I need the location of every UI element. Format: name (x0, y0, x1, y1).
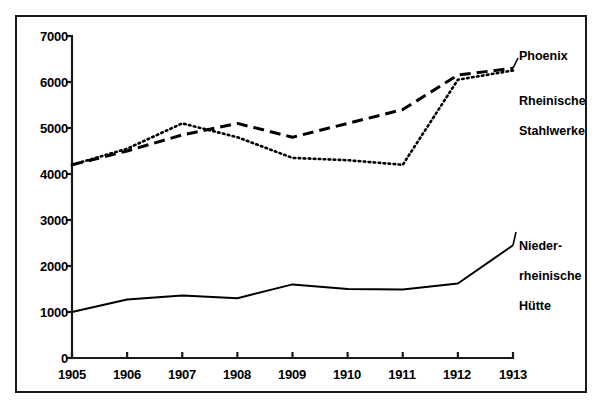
ytick-label-0: 0 (24, 351, 68, 366)
leader-phoenix (513, 58, 518, 68)
series-label-nieder-line3: Hütte (519, 299, 551, 313)
xtick-label-1908: 1908 (212, 367, 262, 382)
xtick-label-1905: 1905 (47, 367, 97, 382)
series-line-phoenix (72, 68, 513, 165)
series-label-nieder-line1: Nieder- (519, 239, 562, 253)
xtick-label-1910: 1910 (322, 367, 372, 382)
ytick-label-1000: 1000 (24, 305, 68, 320)
xtick-label-1913: 1913 (488, 367, 538, 382)
ytick-label-2000: 2000 (24, 259, 68, 274)
ytick-label-3000: 3000 (24, 213, 68, 228)
series-label-rheinische-line1: Rheinische (519, 94, 586, 108)
xtick-label-1907: 1907 (157, 367, 207, 382)
leader-niederrheinische-huette (513, 232, 516, 245)
xtick-label-1912: 1912 (432, 367, 482, 382)
series-label-rheinische-line2: Stahlwerke (519, 124, 585, 138)
xtick-label-1906: 1906 (102, 367, 152, 382)
xtick-label-1909: 1909 (267, 367, 317, 382)
series-label-phoenix: Phoenix (519, 49, 568, 64)
series-group (72, 58, 518, 312)
ytick-label-5000: 5000 (24, 121, 68, 136)
series-line-rheinische-stahlwerke (72, 71, 513, 165)
ytick-label-6000: 6000 (24, 75, 68, 90)
ytick-label-4000: 4000 (24, 167, 68, 182)
chart-page: 7000 6000 5000 4000 3000 2000 1000 0 190… (0, 0, 610, 415)
series-line-niederrheinische-h-tte (72, 245, 513, 312)
xtick-label-1911: 1911 (377, 367, 427, 382)
axes-group (66, 36, 513, 359)
series-label-nieder-line2: rheinische (519, 269, 582, 283)
ytick-label-7000: 7000 (24, 29, 68, 44)
series-label-rheinische-stahlwerke: Rheinische Stahlwerke (519, 79, 586, 139)
series-label-niederrheinische-huette: Nieder- rheinische Hütte (519, 224, 582, 314)
